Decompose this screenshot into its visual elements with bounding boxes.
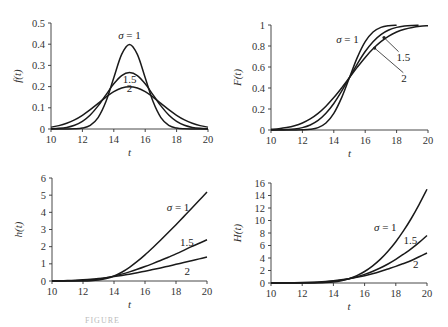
x-tick-label: 14 [109,134,120,145]
y-axis-label: H(t) [231,224,244,244]
y-tick-label: 14 [255,190,266,201]
cumulative-hazard-plot: 0246810121416101214161820tH(t)σ = 11.52 [231,178,432,313]
series-annotation: 1.5 [404,234,418,246]
series-annotation: σ = 1 [374,221,397,233]
y-tick-label: 0.1 [32,102,45,113]
x-tick-label: 12 [297,135,308,146]
y-tick-label: 2 [41,241,46,252]
y-tick-label: 0.5 [32,18,45,29]
arrow-head-icon [382,36,385,39]
series-annotation: 1.5 [180,236,194,248]
y-tick-label: 0.2 [252,104,265,115]
arrow-head-icon [373,47,376,50]
y-tick-label: 4 [260,253,266,264]
x-tick-label: 20 [422,288,433,299]
y-tick-label: 8 [260,228,265,239]
x-axis-label: t [128,146,132,158]
x-tick-label: 12 [77,134,88,145]
x-tick-label: 12 [297,288,308,299]
y-tick-label: 0.8 [252,41,265,52]
x-axis-label: t [347,300,351,312]
x-tick-label: 16 [360,135,371,146]
series-annotation: 2 [185,265,191,277]
figure-canvas: 00.10.20.30.40.5101214161820tf(t)σ = 11.… [0,0,448,327]
y-tick-label: 6 [260,240,265,251]
series-annotation: 2 [127,82,133,94]
y-tick-label: 0 [260,278,265,289]
x-tick-label: 10 [266,135,277,146]
x-tick-label: 14 [329,135,340,146]
y-tick-label: 4 [41,207,47,218]
x-tick-label: 16 [140,286,151,297]
y-tick-label: 0 [41,276,46,287]
annotation-arrow [384,38,399,52]
y-tick-label: 0.3 [32,60,45,71]
x-tick-label: 18 [171,286,182,297]
y-tick-label: 0 [40,124,45,135]
series-annotation: σ = 1 [336,33,359,45]
x-tick-label: 10 [47,286,58,297]
y-tick-label: 0.6 [252,62,265,73]
series-annotation: 2 [413,258,419,270]
x-tick-label: 18 [171,134,182,145]
x-tick-label: 20 [203,134,214,145]
y-tick-label: 10 [255,215,266,226]
series-annotation: σ = 1 [118,29,141,41]
y-axis-label: F(t) [231,69,244,87]
x-tick-label: 12 [78,286,89,297]
x-tick-label: 20 [202,286,213,297]
y-tick-label: 16 [255,178,266,189]
series-annotation: 1.5 [397,51,411,63]
x-axis-label: t [348,147,352,159]
x-tick-label: 10 [46,134,57,145]
y-tick-label: 6 [41,173,46,184]
y-tick-label: 0 [260,125,265,136]
x-tick-label: 16 [140,134,151,145]
series-annotation: 2 [401,72,407,84]
x-tick-label: 10 [266,288,277,299]
y-tick-label: 3 [41,224,46,235]
y-tick-label: 12 [255,203,266,214]
hazard-rate-plot: 0123456101214161820th(t)σ = 11.52 [12,173,212,311]
series-annotation: σ = 1 [167,201,190,213]
y-tick-label: 2 [260,265,265,276]
y-tick-label: 0.2 [32,81,45,92]
series-curve [271,253,427,283]
x-tick-label: 14 [328,288,339,299]
y-axis-label: f(t) [11,69,24,83]
figure-caption: FIGURE [85,316,120,325]
y-tick-label: 1 [260,20,265,31]
y-tick-label: 0.4 [252,83,266,94]
x-tick-label: 18 [391,135,402,146]
y-tick-label: 0.4 [32,39,46,50]
series-curve [271,25,397,130]
cdf-plot: 00.20.40.60.81101214161820tF(t)σ = 11.52 [231,20,433,160]
pdf-plot: 00.10.20.30.40.5101214161820tf(t)σ = 11.… [11,18,213,159]
x-tick-label: 16 [359,288,370,299]
y-axis-label: h(t) [12,221,25,237]
x-tick-label: 20 [423,135,434,146]
x-tick-label: 18 [391,288,402,299]
y-tick-label: 5 [41,190,46,201]
y-tick-label: 1 [41,258,46,269]
x-tick-label: 14 [109,286,120,297]
x-axis-label: t [128,298,132,310]
